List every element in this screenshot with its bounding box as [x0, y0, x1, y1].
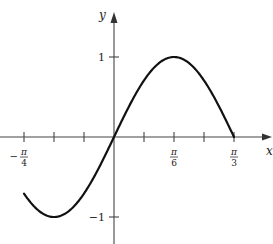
x-tick-label-numerator: π: [20, 147, 28, 157]
x-tick-label-numerator: π: [230, 147, 238, 157]
x-tick-label-numerator: π: [170, 147, 178, 157]
y-tick-label: −1: [89, 211, 105, 224]
x-tick-label-sign: −: [10, 151, 18, 162]
x-tick-label-denominator: 3: [231, 158, 237, 168]
plot-canvas: 1−1π4−π6π3xy: [0, 0, 273, 244]
x-axis-label: x: [266, 144, 273, 158]
sine-plot: 1−1π4−π6π3xy: [0, 0, 273, 244]
x-axis-arrow-icon: [262, 134, 272, 141]
y-axis-label: y: [98, 8, 106, 22]
y-tick-label: 1: [98, 51, 105, 64]
x-tick-label-denominator: 4: [21, 158, 27, 168]
x-tick-label-denominator: 6: [171, 158, 177, 168]
y-axis-arrow-icon: [111, 12, 118, 23]
